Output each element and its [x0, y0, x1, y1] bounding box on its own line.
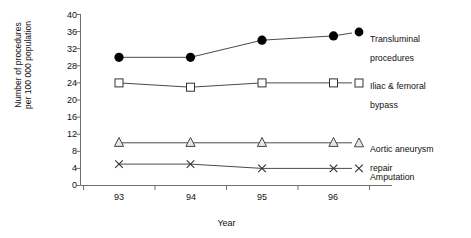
legend-item-iliac-line2: bypass	[370, 100, 398, 110]
legend-marker-amputation	[355, 165, 363, 173]
legend-item-aortic-line1: Aortic aneurysm	[370, 144, 434, 154]
legend-item-iliac-line1: Iliac & femoral	[370, 81, 426, 91]
series-line-transluminal	[119, 36, 334, 57]
series-markers-aortic-aneurysm-repair	[114, 138, 338, 147]
legend-item-amputation-line1: Amputation	[370, 172, 415, 182]
x-tick-marks	[84, 186, 370, 191]
legend-marker-iliac-femoral-bypass	[355, 79, 363, 87]
legend-item-amputation: Amputation	[370, 163, 415, 182]
line-chart: Number of procedures per 100 000 populat…	[0, 0, 471, 238]
y-tick-marks	[76, 15, 81, 186]
legend-item-transluminal-line1: Transluminal	[370, 34, 420, 44]
legend-item-iliac-femoral-bypass: Iliac & femoral bypass	[370, 72, 426, 110]
legend-item-transluminal-line2: procedures	[370, 53, 414, 63]
series-line-iliac-femoral-bypass	[119, 83, 334, 87]
legend-marker-transluminal	[355, 28, 364, 37]
legend-item-transluminal-procedures: Transluminal procedures	[370, 25, 420, 63]
series-line-amputation	[119, 164, 334, 168]
legend-marker-aortic-aneurysm-repair	[354, 138, 363, 147]
